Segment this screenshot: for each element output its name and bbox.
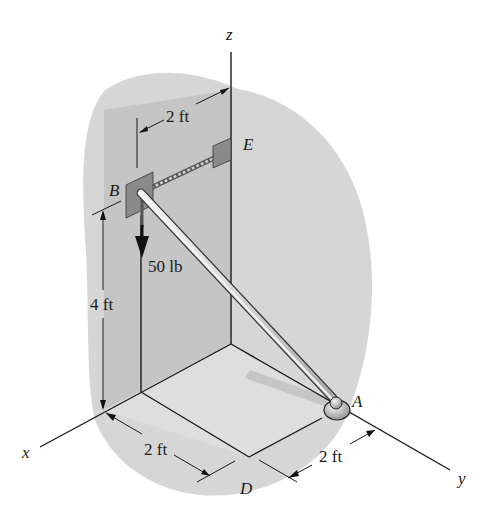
dimension-label-x: 2 ft — [144, 440, 167, 459]
statics-diagram: z x y A B D E 2 ft 4 ft 2 ft 2 ft 50 lb — [0, 0, 485, 517]
dimension-label-y: 2 ft — [319, 447, 342, 466]
dimension-label-top: 2 ft — [166, 107, 189, 126]
z-axis-label: z — [225, 25, 233, 44]
y-axis-label: y — [456, 469, 466, 488]
point-label-E: E — [242, 135, 254, 154]
dimension-label-4ft: 4 ft — [90, 295, 113, 314]
point-label-A: A — [351, 392, 363, 411]
point-label-D: D — [239, 479, 253, 498]
load-label: 50 lb — [148, 257, 182, 276]
x-axis-label: x — [21, 443, 30, 462]
point-label-B: B — [109, 181, 120, 200]
